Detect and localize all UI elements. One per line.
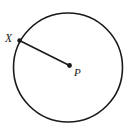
point-p-dot [67,63,72,68]
point-x-dot [17,38,21,42]
figure-background [0,0,133,135]
diagram-canvas: X P [0,0,133,135]
geometry-figure: X P [0,0,133,135]
point-x-label: X [4,32,13,44]
point-p-label: P [73,66,81,78]
